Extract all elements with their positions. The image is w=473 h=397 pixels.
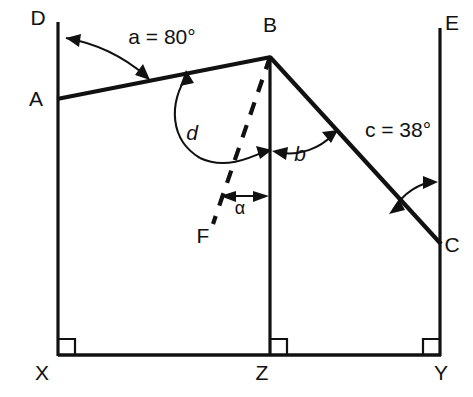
vertex-label-F: F [197,224,210,247]
angle-label-c: c = 38° [365,118,431,141]
geometry-diagram: D A B E C F X Z Y a = 80° d b c = 38° α [0,0,473,397]
right-angle-mark-X [58,339,75,355]
angle-label-a: a = 80° [128,25,195,48]
diagram-canvas: D A B E C F X Z Y a = 80° d b c = 38° α [0,0,473,397]
vertex-label-D: D [30,6,45,29]
angle-arrow-a-end [135,64,150,80]
angle-label-b: b [294,142,306,165]
angle-arrow-b-start [272,147,288,160]
vertex-label-A: A [29,87,43,110]
angle-arrow-c-end [423,176,438,189]
angle-arrow-alpha-right [253,191,269,202]
vertex-label-Z: Z [256,361,269,384]
line-AB [57,57,271,99]
vertex-label-E: E [445,11,459,34]
vertex-label-Y: Y [434,361,448,384]
vertex-label-B: B [263,13,277,36]
vertex-label-X: X [35,361,49,384]
vertex-label-C: C [444,233,459,256]
angle-arrow-a-start [66,34,81,47]
angle-label-d: d [186,121,199,144]
angle-label-alpha: α [235,198,245,218]
right-angle-mark-Y [423,339,440,355]
right-angle-mark-Z [270,339,287,355]
angle-arc-d [175,74,200,158]
